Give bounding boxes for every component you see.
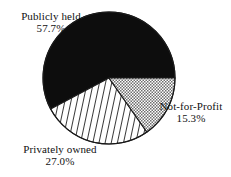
slice-label-publicly-held-name: Publicly held bbox=[8, 10, 94, 22]
slice-label-not-for-profit: Not-for-Profit 15.3% bbox=[152, 100, 230, 125]
slice-label-publicly-held-value: 57.7% bbox=[8, 22, 94, 34]
pie-chart-figure: Publicly held 57.7% Not-for-Profit 15.3%… bbox=[0, 0, 231, 177]
slice-label-privately-owned-value: 27.0% bbox=[8, 155, 112, 167]
slice-label-not-for-profit-value: 15.3% bbox=[152, 112, 230, 124]
slice-label-publicly-held: Publicly held 57.7% bbox=[8, 10, 94, 35]
slice-label-privately-owned-name: Privately owned bbox=[8, 143, 112, 155]
slice-label-not-for-profit-name: Not-for-Profit bbox=[152, 100, 230, 112]
slice-label-privately-owned: Privately owned 27.0% bbox=[8, 143, 112, 168]
